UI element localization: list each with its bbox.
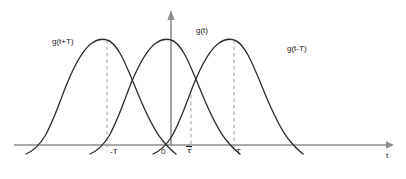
curve-g-t-minus-T [153,39,303,154]
tau-glyph: τ [186,147,192,155]
curve-label-g-t: g(t) [196,27,208,35]
x-axis-label: t [386,152,388,160]
curve-g-t-plus-T [26,39,176,154]
x-axis [14,141,394,149]
tick-label-tau-bar: τ [186,146,192,155]
figure-container: g(t+T) g(t) g(t-T) -T 0 τ T t [0,0,406,179]
curve-label-g-t-minus-T: g(t-T) [287,45,307,53]
tick-label-plus-T: T [236,148,241,156]
tick-label-minus-T: -T [110,148,118,156]
tick-label-zero: 0 [161,148,165,156]
y-axis [167,10,174,146]
curve-g-t [90,39,240,154]
curve-label-g-t-plus-T: g(t+T) [52,38,74,46]
